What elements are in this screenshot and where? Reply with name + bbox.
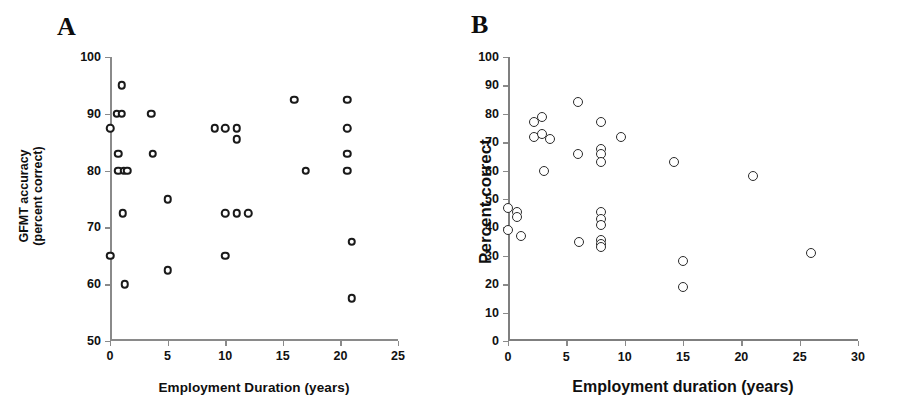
data-point (118, 209, 127, 218)
panel-b-x-tick (741, 341, 742, 346)
panel-a-x-tick-label: 0 (107, 350, 114, 363)
panel-a-x-tick (110, 341, 111, 346)
panel-a-x-axis-title: Employment Duration (years) (110, 380, 398, 395)
panel-b-y-tick (503, 313, 508, 314)
panel-b-x-tick-label: 5 (563, 351, 570, 364)
data-point (123, 166, 132, 175)
panel-b-x-tick (858, 341, 859, 346)
panel-b-y-tick-label: 100 (478, 51, 499, 64)
panel-b-x-tick-label: 20 (734, 351, 748, 364)
panel-a-y-tick (105, 171, 110, 172)
data-point (147, 110, 156, 119)
panel-b-x-tick (625, 341, 626, 346)
data-point (806, 248, 816, 258)
panel-a-x-tick (168, 341, 169, 346)
data-point (106, 124, 115, 133)
data-point (503, 225, 513, 235)
panel-a-x-tick (225, 341, 226, 346)
panel-a-x-tick-label: 5 (164, 350, 171, 363)
panel-b-letter: B (471, 12, 488, 38)
panel-b-y-tick (503, 57, 508, 58)
data-point (163, 195, 172, 204)
panel-a-y-tick-label: 60 (87, 278, 101, 291)
data-point (232, 135, 241, 144)
data-point (512, 212, 522, 222)
panel-b-y-tick (503, 199, 508, 200)
panel-b-x-tick-label: 15 (676, 351, 690, 364)
panel-b-x-tick (800, 341, 801, 346)
panel-a-x-axis-line (110, 339, 398, 341)
panel-b-y-axis-title: Percent correct (476, 102, 495, 302)
panel-a-y-axis-line (110, 57, 112, 341)
data-point (211, 124, 220, 133)
panel-a-y-axis-title-line2: (percent correct) (31, 111, 45, 281)
data-point (348, 294, 357, 303)
panel-b-y-tick (503, 284, 508, 285)
data-point (573, 149, 583, 159)
panel-b-y-tick-label: 90 (485, 79, 499, 92)
data-point (574, 237, 584, 247)
panel-b-y-tick-label: 10 (485, 306, 499, 319)
panel-a-y-tick-label: 90 (87, 108, 101, 121)
data-point (114, 149, 123, 158)
panel-b-x-tick (683, 341, 684, 346)
data-point (121, 280, 130, 289)
panel-a-x-tick-label: 10 (218, 350, 232, 363)
data-point (343, 149, 352, 158)
data-point (616, 132, 626, 142)
panel-a-y-tick-label: 70 (87, 221, 101, 234)
panel-b-x-tick-label: 25 (793, 351, 807, 364)
data-point (516, 231, 526, 241)
panel-a-y-axis-title: GFMT accuracy (percent correct) (17, 111, 45, 281)
panel-b-y-tick (503, 142, 508, 143)
panel-a-letter: A (57, 14, 76, 40)
data-point (106, 252, 115, 261)
data-point (117, 81, 126, 90)
data-point (232, 209, 241, 218)
data-point (748, 171, 758, 181)
data-point (596, 117, 606, 127)
panel-a-x-tick (340, 341, 341, 346)
data-point (539, 166, 549, 176)
data-point (302, 166, 311, 175)
panel-b-x-axis-title: Employment duration (years) (508, 378, 858, 396)
data-point (545, 134, 555, 144)
panel-b-y-tick (503, 256, 508, 257)
panel-b-y-tick (503, 171, 508, 172)
data-point (596, 220, 606, 230)
panel-b-y-tick (503, 85, 508, 86)
panel-b-y-axis-line (508, 57, 510, 341)
data-point (596, 157, 606, 167)
panel-b-x-tick (508, 341, 509, 346)
panel-b-y-tick-label: 0 (492, 335, 499, 348)
data-point (537, 112, 547, 122)
panel-a-x-tick-label: 20 (333, 350, 347, 363)
data-point (163, 266, 172, 275)
panel-b-x-tick-label: 0 (505, 351, 512, 364)
panel-a-y-tick-label: 80 (87, 164, 101, 177)
panel-a-y-tick (105, 227, 110, 228)
panel-b-x-tick-label: 10 (618, 351, 632, 364)
data-point (343, 124, 352, 133)
panel-a-y-tick-label: 100 (80, 51, 101, 64)
panel-a-x-tick-label: 25 (391, 350, 405, 363)
data-point (117, 110, 126, 119)
panel-b: B 0102030405060708090100051015202530 Emp… (455, 0, 911, 410)
panel-a-x-tick (398, 341, 399, 346)
panel-a-y-tick-label: 50 (87, 335, 101, 348)
panel-a-y-tick (105, 284, 110, 285)
data-point (678, 282, 688, 292)
panel-a-plot-area: 50607080901000510152025 (110, 57, 398, 341)
data-point (343, 166, 352, 175)
panel-a-y-tick (105, 114, 110, 115)
data-point (232, 124, 241, 133)
data-point (290, 95, 299, 104)
figure-scatter-pair: A 50607080901000510152025 Employment Dur… (0, 0, 911, 410)
data-point (148, 149, 157, 158)
panel-a-y-axis-title-line1: GFMT accuracy (17, 111, 31, 281)
data-point (221, 209, 230, 218)
panel-b-x-tick (566, 341, 567, 346)
data-point (678, 256, 688, 266)
data-point (348, 237, 357, 246)
data-point (221, 124, 230, 133)
